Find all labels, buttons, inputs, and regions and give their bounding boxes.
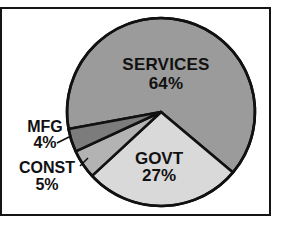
slice-pct-const: 5% <box>10 176 84 193</box>
slice-name-services: SERVICES <box>114 55 218 74</box>
pie-label-govt: GOVT 27% <box>124 150 194 184</box>
chart-canvas: SERVICES 64% GOVT 27% MFG 4% CONST 5% <box>0 0 283 227</box>
slice-pct-mfg: 4% <box>15 135 75 151</box>
pie-label-services: SERVICES 64% <box>114 55 218 93</box>
slice-name-govt: GOVT <box>124 150 194 167</box>
slice-name-mfg: MFG <box>15 119 75 135</box>
pie-label-const: CONST 5% <box>10 159 84 193</box>
pie-label-mfg: MFG 4% <box>15 119 75 151</box>
slice-name-const: CONST <box>10 159 84 176</box>
slice-pct-services: 64% <box>114 74 218 93</box>
slice-pct-govt: 27% <box>124 167 194 184</box>
